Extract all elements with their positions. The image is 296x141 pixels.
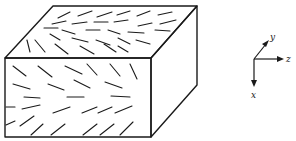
- fiber-segment: [105, 82, 122, 88]
- fiber-segment: [118, 46, 128, 52]
- fiber-segment: [120, 122, 133, 135]
- fiber-segment: [31, 124, 43, 135]
- fiber-segment: [87, 64, 97, 75]
- z-axis-label: z: [285, 54, 291, 64]
- fiber-segment: [6, 121, 15, 125]
- fiber-segment: [13, 66, 26, 76]
- y-axis-arrow: [254, 44, 266, 59]
- fiber-segment: [78, 11, 92, 16]
- fiber-segment: [38, 66, 52, 77]
- fiber-segment: [160, 20, 176, 24]
- fiber-segment: [98, 107, 112, 113]
- fiber-segment: [118, 38, 130, 44]
- fiber-segment: [115, 106, 132, 113]
- fiber-segment: [137, 11, 150, 16]
- block-side-face: [151, 6, 197, 137]
- fiber-segment: [100, 124, 114, 135]
- fiber-segment: [65, 66, 82, 74]
- coordinate-axes: y z x: [251, 32, 291, 100]
- fiber-segment: [27, 40, 30, 52]
- fiber-segment: [158, 12, 172, 15]
- z-arrowhead-icon: [277, 56, 284, 62]
- fiber-segment: [155, 30, 170, 31]
- fiber-segment: [22, 105, 40, 109]
- fiber-segment: [96, 40, 110, 45]
- fiber-segment: [58, 12, 70, 18]
- fiber-segment: [74, 80, 90, 88]
- x-axis-label: x: [251, 90, 256, 100]
- fiber-segment: [111, 96, 130, 97]
- fiber-segment: [117, 11, 130, 15]
- fiber-segment: [114, 20, 128, 22]
- fiber-segment: [72, 38, 88, 42]
- y-axis-label: y: [269, 32, 276, 42]
- fiber-segment: [83, 124, 97, 135]
- fiber-block-diagram: y z x: [0, 0, 296, 141]
- fiber-segment: [128, 32, 144, 33]
- fiber-segment: [72, 22, 87, 24]
- front-face-fibers: [6, 64, 137, 135]
- block: [5, 6, 197, 137]
- fiber-segment: [20, 116, 34, 126]
- fiber-segment: [97, 12, 112, 17]
- fiber-segment: [80, 46, 94, 54]
- fiber-segment: [35, 40, 45, 52]
- fiber-segment: [108, 30, 120, 34]
- fiber-segment: [48, 84, 64, 90]
- fiber-segment: [138, 23, 152, 26]
- fiber-segment: [130, 64, 137, 79]
- fiber-segment: [62, 30, 75, 34]
- top-face-fibers: [27, 11, 176, 54]
- fiber-segment: [52, 21, 66, 24]
- fiber-segment: [24, 97, 40, 98]
- y-arrowhead-icon: [262, 40, 269, 47]
- fiber-segment: [82, 107, 97, 113]
- fiber-segment: [50, 34, 60, 40]
- fiber-segment: [136, 40, 150, 44]
- fiber-segment: [55, 44, 68, 54]
- fiber-segment: [13, 84, 30, 89]
- fiber-segment: [53, 107, 70, 113]
- fiber-segment: [51, 124, 65, 135]
- x-arrowhead-icon: [251, 80, 257, 87]
- block-top-face: [5, 6, 197, 58]
- fiber-segment: [110, 64, 120, 76]
